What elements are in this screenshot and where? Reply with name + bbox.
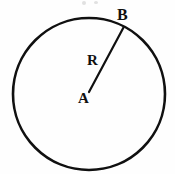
scan-artifact-icon (82, 1, 86, 5)
point-label-b: B (117, 7, 128, 23)
geometry-figure: B R A (0, 0, 175, 174)
circle-radius-diagram (0, 0, 175, 174)
circle-outline (13, 18, 165, 170)
point-label-a: A (78, 91, 89, 106)
radius-label-r: R (87, 53, 98, 68)
scan-artifact-icon (94, 1, 98, 4)
